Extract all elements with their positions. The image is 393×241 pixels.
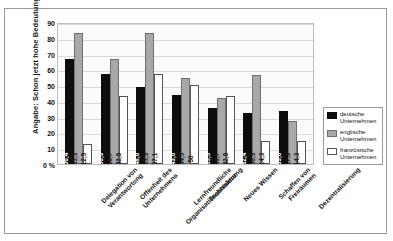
bar[interactable]: 66,4 bbox=[65, 59, 74, 164]
y-tick-10: 10 bbox=[47, 146, 55, 153]
bar-group: 66,483,312,5 bbox=[61, 24, 97, 164]
y-tick-20: 20 bbox=[47, 130, 55, 137]
legend-swatch-icon bbox=[327, 148, 337, 155]
x-tick-label: Dezentralisierung bbox=[317, 166, 362, 211]
bar[interactable]: 83,3 bbox=[145, 33, 154, 164]
bar-value-label: 42,9 bbox=[221, 153, 230, 165]
legend-label-line: Unternehmen bbox=[340, 136, 376, 143]
bar-value-label: 14,3 bbox=[257, 153, 266, 165]
bar[interactable]: 83,3 bbox=[74, 33, 83, 164]
bar-value-label: 50 bbox=[186, 155, 195, 162]
legend-label-line: Unternehmen bbox=[340, 118, 376, 125]
x-tick-label-line: Lernfreundliche bbox=[178, 166, 232, 220]
bar-value-label: 54,5 bbox=[177, 153, 186, 165]
y-axis-tick-labels: 0 %102030405060708090 bbox=[29, 23, 55, 165]
bar-group: 33,627,314,3 bbox=[274, 24, 310, 164]
bar[interactable]: 66,7 bbox=[110, 59, 119, 164]
bar-value-label: 57,1 bbox=[150, 153, 159, 165]
x-tick-label: Offenheit desUnternehmens bbox=[135, 166, 178, 209]
legend-swatch-icon bbox=[327, 112, 337, 119]
bar-value-label: 41,7 bbox=[212, 153, 221, 165]
bar-group: 56,966,742,9 bbox=[97, 24, 133, 164]
y-tick-60: 60 bbox=[47, 67, 55, 74]
y-tick-70: 70 bbox=[47, 51, 55, 58]
bar[interactable]: 54,5 bbox=[181, 78, 190, 164]
bar[interactable]: 42,9 bbox=[226, 96, 235, 164]
bar[interactable]: 12,5 bbox=[83, 144, 92, 164]
legend-label: französischeUnternehmen bbox=[340, 147, 376, 162]
x-tick-label: Schaffen vonFreiräumen bbox=[277, 166, 317, 206]
legend-label-line: englische bbox=[340, 129, 376, 136]
x-tick-label-line: Dezentralisierung bbox=[317, 166, 362, 211]
bar-value-label: 83,3 bbox=[70, 153, 79, 165]
legend-item[interactable]: englischeUnternehmen bbox=[327, 129, 379, 144]
bar-value-label: 83,3 bbox=[141, 153, 150, 165]
bar-value-label: 14,3 bbox=[292, 153, 301, 165]
legend-item[interactable]: französischeUnternehmen bbox=[327, 147, 379, 162]
bar-value-label: 42,9 bbox=[114, 153, 123, 165]
legend-label: deutscheUnternehmen bbox=[340, 111, 376, 126]
bar[interactable]: 57,1 bbox=[154, 74, 163, 164]
bar-value-label: 66,7 bbox=[105, 153, 114, 165]
bar-value-label: 12,5 bbox=[79, 153, 88, 165]
bar-groups: 66,483,312,556,966,742,948,683,357,143,6… bbox=[58, 24, 313, 164]
y-tick-90: 90 bbox=[47, 20, 55, 27]
y-tick-80: 80 bbox=[47, 35, 55, 42]
bar[interactable]: 14,3 bbox=[297, 141, 306, 164]
legend-label: englischeUnternehmen bbox=[340, 129, 376, 144]
bar-group: 35,541,742,9 bbox=[203, 24, 239, 164]
bar-value-label: 32,4 bbox=[239, 153, 248, 165]
legend-swatch-icon bbox=[327, 130, 337, 137]
bar[interactable]: 56,3 bbox=[252, 75, 261, 164]
chart-frame: Angabe: Schon jetzt hohe Bedeutung 0 %10… bbox=[4, 8, 387, 234]
legend: deutscheUnternehmenenglischeUnternehmenf… bbox=[323, 107, 383, 165]
legend-label-line: französische bbox=[340, 147, 376, 154]
y-tick-50: 50 bbox=[47, 83, 55, 90]
bar-value-label: 66,4 bbox=[61, 153, 70, 165]
x-tick-label: Delegation vonVerantwortung bbox=[100, 166, 144, 210]
bar-group: 43,654,550 bbox=[168, 24, 204, 164]
legend-label-line: Unternehmen bbox=[340, 154, 376, 161]
bar[interactable]: 42,9 bbox=[119, 96, 128, 164]
plot-area: 66,483,312,556,966,742,948,683,357,143,6… bbox=[57, 23, 314, 165]
x-tick-label: Neues Wissen bbox=[242, 166, 279, 203]
bar-value-label: 56,3 bbox=[248, 153, 257, 165]
bar-group: 32,456,314,3 bbox=[239, 24, 275, 164]
bar-value-label: 35,5 bbox=[203, 153, 212, 165]
bar[interactable]: 14,3 bbox=[261, 141, 270, 164]
legend-item[interactable]: deutscheUnternehmen bbox=[327, 111, 379, 126]
bar[interactable]: 50 bbox=[190, 85, 199, 164]
bar[interactable]: 56,9 bbox=[101, 74, 110, 164]
bar-value-label: 56,9 bbox=[96, 153, 105, 165]
bar-group: 48,683,357,1 bbox=[132, 24, 168, 164]
bar-value-label: 48,6 bbox=[132, 153, 141, 165]
bar-value-label: 33,6 bbox=[274, 153, 283, 165]
y-tick-40: 40 bbox=[47, 98, 55, 105]
bar-value-label: 27,3 bbox=[283, 153, 292, 165]
legend-label-line: deutsche bbox=[340, 111, 376, 118]
plot-background: 66,483,312,556,966,742,948,683,357,143,6… bbox=[57, 23, 314, 165]
x-tick-label-line: Neues Wissen bbox=[242, 166, 279, 203]
y-tick-30: 30 bbox=[47, 114, 55, 121]
y-tick-0: 0 % bbox=[43, 162, 55, 169]
bar-value-label: 43,6 bbox=[168, 153, 177, 165]
